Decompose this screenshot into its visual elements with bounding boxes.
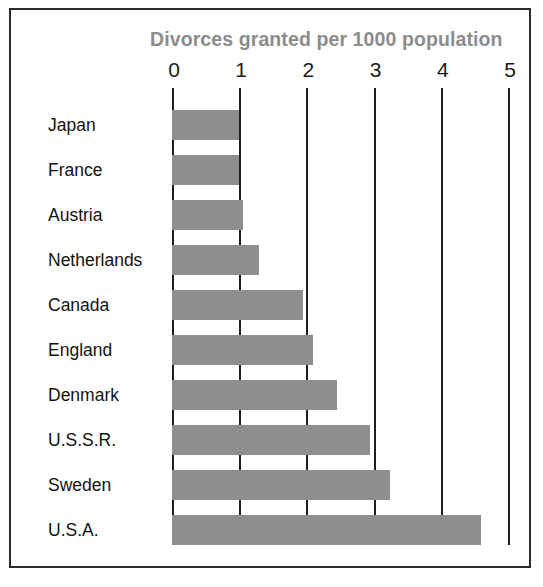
- category-label-england: England: [48, 340, 112, 361]
- x-tick-label-0: 0: [154, 58, 194, 82]
- category-label-sweden: Sweden: [48, 475, 111, 496]
- category-label-denmark: Denmark: [48, 385, 119, 406]
- bar-england: [172, 335, 313, 365]
- bar-austria: [172, 200, 243, 230]
- category-label-u-s-a: U.S.A.: [48, 520, 99, 541]
- bar-japan: [172, 110, 239, 140]
- category-label-austria: Austria: [48, 205, 102, 226]
- x-tick-label-1: 1: [221, 58, 261, 82]
- x-axis-tick-labels: 012345: [0, 0, 543, 88]
- bar-canada: [172, 290, 303, 320]
- x-tick-label-3: 3: [356, 58, 396, 82]
- gridline-4: [441, 88, 443, 545]
- chart-page: Divorces granted per 1000 population 012…: [0, 0, 543, 587]
- bar-denmark: [172, 380, 337, 410]
- gridline-5: [508, 88, 510, 545]
- plot-area: [172, 88, 510, 545]
- x-tick-label-4: 4: [423, 58, 463, 82]
- category-label-japan: Japan: [48, 115, 96, 136]
- bar-sweden: [172, 470, 390, 500]
- category-label-u-s-s-r: U.S.S.R.: [48, 430, 116, 451]
- bar-u-s-a: [172, 515, 481, 545]
- category-label-netherlands: Netherlands: [48, 250, 142, 271]
- bar-u-s-s-r: [172, 425, 370, 455]
- x-tick-label-5: 5: [490, 58, 530, 82]
- category-label-canada: Canada: [48, 295, 109, 316]
- category-label-france: France: [48, 160, 102, 181]
- x-tick-label-2: 2: [288, 58, 328, 82]
- bar-netherlands: [172, 245, 259, 275]
- bar-france: [172, 155, 239, 185]
